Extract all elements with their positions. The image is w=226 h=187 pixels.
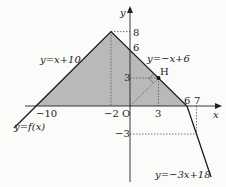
line-label-right: y=−3x+18 <box>154 169 211 180</box>
curve-label: y=f(x) <box>13 121 45 132</box>
point-H-label: H <box>160 66 169 77</box>
origin-label: O <box>122 108 130 119</box>
y-axis-label: y <box>119 7 126 18</box>
y-axis-arrow-icon <box>127 6 133 13</box>
line-label-middle: y=−x+6 <box>146 53 190 64</box>
x-tick-6: 6 <box>184 95 190 106</box>
x-tick-3: 3 <box>155 108 161 119</box>
x-tick-neg2: −2 <box>104 108 119 119</box>
x-tick-neg10: −10 <box>36 108 57 119</box>
x-tick-7: 7 <box>194 95 200 106</box>
y-tick-8: 8 <box>133 27 139 38</box>
graph-diagram: x y O H y=x+10 y=−x+6 y=−3x+18 y=f(x) −1… <box>0 0 226 187</box>
y-tick-3: 3 <box>124 72 130 83</box>
y-tick-6: 6 <box>133 42 139 53</box>
line-label-left: y=x+10 <box>39 54 81 65</box>
y-tick-neg3: −3 <box>115 128 130 139</box>
x-axis-label: x <box>213 109 219 120</box>
